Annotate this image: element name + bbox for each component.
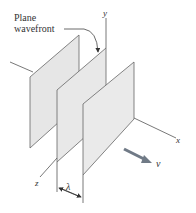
y-axis-label: y: [102, 8, 107, 18]
x-axis: [134, 118, 176, 138]
wavefront-label: wavefront: [14, 23, 55, 34]
velocity-arrowhead: [141, 155, 152, 163]
velocity-arrow: [124, 149, 146, 160]
wavelength-label: λ: [65, 181, 71, 192]
z-axis: [40, 158, 57, 177]
plane-label: Plane: [14, 12, 37, 23]
leader-line: [10, 62, 33, 72]
plane-wavefront-diagram: Plane wavefront y x z λ v: [0, 0, 196, 213]
x-axis-label: x: [175, 135, 180, 145]
z-axis-label: z: [34, 178, 39, 188]
velocity-label: v: [156, 158, 161, 169]
